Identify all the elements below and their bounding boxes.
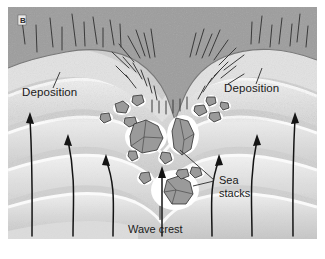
panel-letter: B (20, 16, 26, 25)
deposition-left-label: Deposition (22, 86, 77, 98)
deposition-right-label: Deposition (224, 82, 279, 94)
sea-stacks-label-line1: Sea (219, 174, 239, 186)
diagram-canvas: Deposition Deposition Sea stacks Wave cr… (0, 0, 325, 259)
coastal-diagram-figure: Deposition Deposition Sea stacks Wave cr… (0, 0, 325, 259)
sea-stacks-label-line2: stacks (219, 187, 251, 199)
diagram-frame: Deposition Deposition Sea stacks Wave cr… (8, 7, 317, 239)
wave-crest-label: Wave crest (128, 223, 183, 235)
